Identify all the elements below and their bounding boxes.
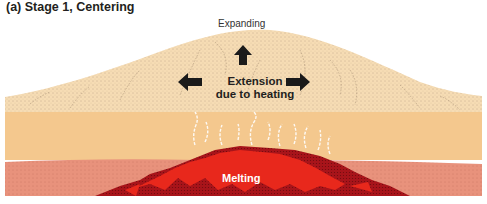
- melting-label: Melting: [222, 172, 261, 184]
- expanding-label: Expanding: [218, 18, 265, 29]
- extension-label-line2: due to heating: [200, 88, 310, 101]
- extension-label: Extension due to heating: [200, 75, 310, 101]
- extension-label-line1: Extension: [200, 75, 310, 88]
